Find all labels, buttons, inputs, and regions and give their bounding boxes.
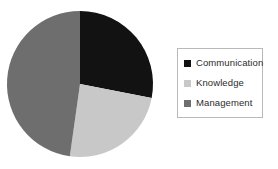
pie-svg	[0, 0, 170, 169]
legend-label-knowledge: Knowledge	[196, 78, 244, 88]
legend-label-management: Management	[196, 98, 252, 108]
legend-item-knowledge[interactable]: Knowledge	[184, 75, 262, 91]
pie-plot-area	[0, 0, 170, 169]
pie-chart: Communication Knowledge Management	[0, 0, 278, 169]
legend-swatch-communication	[184, 60, 191, 67]
legend-item-communication[interactable]: Communication	[184, 55, 262, 71]
legend-item-management[interactable]: Management	[184, 95, 262, 111]
pie-slice-management[interactable]	[7, 11, 80, 156]
legend-swatch-knowledge	[184, 80, 191, 87]
legend-swatch-management	[184, 100, 191, 107]
chart-legend: Communication Knowledge Management	[177, 48, 263, 118]
legend-label-communication: Communication	[196, 58, 263, 68]
pie-slice-communication[interactable]	[80, 11, 153, 98]
